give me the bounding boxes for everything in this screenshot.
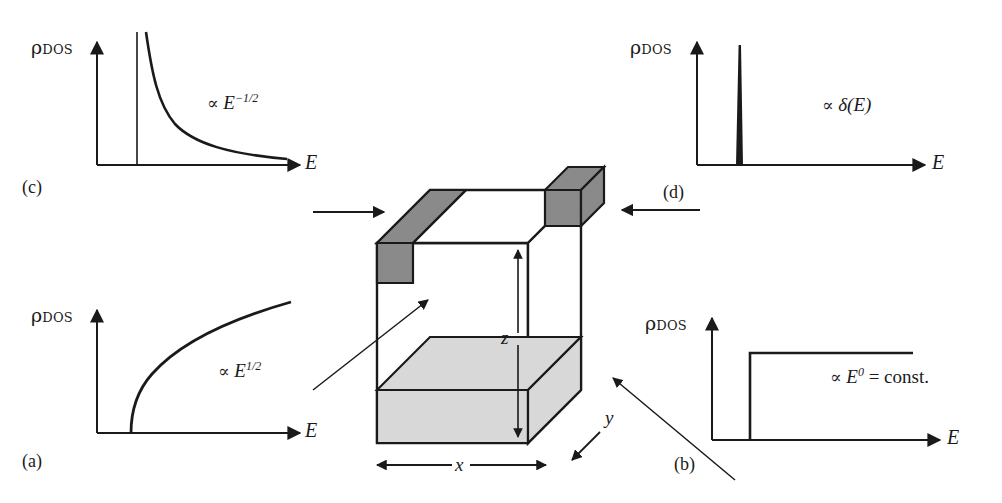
panel-c-plot <box>97 32 300 165</box>
panel-d-letter: (d) <box>663 183 684 201</box>
panel-c-x-axis-label: E <box>305 152 317 172</box>
panel-a-letter: (a) <box>22 452 42 470</box>
cube-x-label: x <box>455 455 463 474</box>
quantum-dot-front <box>545 190 581 226</box>
panel-d-delta-spike <box>736 45 743 165</box>
panel-b-y-axis-label: ρDOS <box>645 314 687 333</box>
panel-d-x-axis-label: E <box>932 152 944 172</box>
cube-z-label: z <box>501 328 508 347</box>
cube-y-label: y <box>605 408 613 427</box>
panel-a-plot <box>97 302 300 433</box>
panel-b-relation: ∝ E0 = const. <box>830 366 929 386</box>
dos-dimensionality-figure: ρDOS E ∝ E−1/2 (c) ρDOS E ∝ δ(E) (d) ρDO… <box>0 0 1002 503</box>
y-dimension-arrow <box>572 432 600 460</box>
panel-c-relation: ∝ E−1/2 <box>207 92 258 112</box>
panel-b-letter: (b) <box>674 455 695 473</box>
panel-a-x-axis-label: E <box>305 420 317 440</box>
panel-b-x-axis-label: E <box>947 427 959 447</box>
panel-a-y-axis-label: ρDOS <box>31 306 73 325</box>
figure-vector-layer <box>0 0 1002 503</box>
quantum-wire-front <box>377 243 413 283</box>
panel-c-letter: (c) <box>22 178 42 196</box>
panel-d-relation: ∝ δ(E) <box>822 95 871 114</box>
panel-d-y-axis-label: ρDOS <box>630 38 672 57</box>
panel-c-y-axis-label: ρDOS <box>31 38 73 57</box>
quantum-well-front <box>377 390 528 443</box>
panel-d-plot <box>697 42 925 165</box>
panel-a-curve-sqrt <box>131 302 291 433</box>
nanostructure-cube <box>377 167 604 465</box>
panel-a-relation: ∝ E1/2 <box>218 360 261 380</box>
